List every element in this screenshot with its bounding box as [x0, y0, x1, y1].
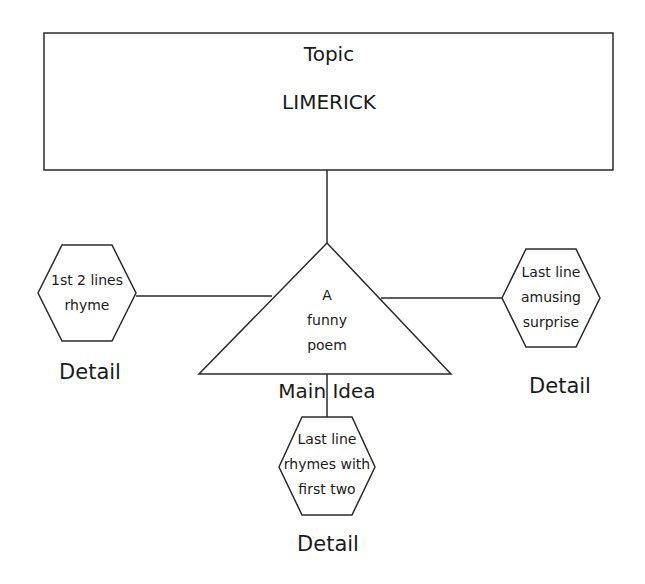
detail-bottom-line: first two	[279, 477, 375, 502]
main-idea-line: A	[277, 283, 377, 308]
topic-value: LIMERICK	[44, 90, 614, 114]
main-idea-text: A funny poem	[277, 283, 377, 358]
detail-left-line: 1st 2 lines	[38, 268, 136, 293]
topic-title: Topic	[44, 42, 614, 66]
detail-left-line: rhyme	[38, 293, 136, 318]
detail-left-label: Detail	[30, 360, 150, 384]
detail-left-text: 1st 2 lines rhyme	[38, 268, 136, 318]
detail-right-line: surprise	[502, 310, 600, 335]
detail-bottom-line: Last line	[279, 427, 375, 452]
detail-bottom-label: Detail	[268, 532, 388, 556]
detail-bottom-text: Last line rhymes with first two	[279, 427, 375, 502]
detail-right-text: Last line amusing surprise	[502, 260, 600, 335]
main-idea-line: poem	[277, 333, 377, 358]
main-idea-line: funny	[277, 308, 377, 333]
detail-right-label: Detail	[500, 374, 620, 398]
main-idea-label: Main Idea	[255, 379, 399, 403]
detail-right-line: Last line	[502, 260, 600, 285]
detail-bottom-line: rhymes with	[279, 452, 375, 477]
detail-right-line: amusing	[502, 285, 600, 310]
